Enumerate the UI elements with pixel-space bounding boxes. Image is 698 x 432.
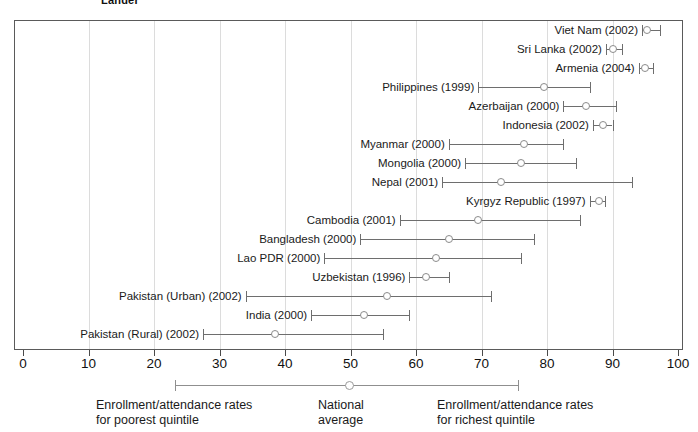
chart-row: Nepal (2001) [0, 173, 698, 192]
richest-cap [409, 310, 410, 321]
chart-row: Azerbaijan (2000) [0, 97, 698, 116]
richest-cap [449, 272, 450, 283]
chart-row: Pakistan (Urban) (2002) [0, 287, 698, 306]
row-label: Pakistan (Urban) (2002) [119, 287, 242, 306]
chart-rows: Viet Nam (2002)Sri Lanka (2002)Armenia (… [0, 20, 698, 350]
legend-right-cap [518, 380, 519, 391]
legend-average-marker [345, 381, 354, 390]
range-line [442, 182, 632, 183]
national-average-marker [360, 311, 368, 319]
richest-cap [622, 44, 623, 55]
x-tick-label: 70 [474, 356, 489, 371]
chart-row: Mongolia (2000) [0, 154, 698, 173]
poorest-cap [409, 272, 410, 283]
x-tick-label: 60 [408, 356, 423, 371]
poorest-cap [246, 291, 247, 302]
row-label: Cambodia (2001) [307, 211, 396, 230]
row-label: Nepal (2001) [372, 173, 438, 192]
row-label: Indonesia (2002) [503, 116, 589, 135]
legend-left-cap [175, 380, 176, 391]
legend-poorest-label: Enrollment/attendance rates for poorest … [96, 398, 252, 428]
row-label: Azerbaijan (2000) [469, 97, 560, 116]
range-line [449, 144, 564, 145]
richest-cap [632, 177, 633, 188]
national-average-marker [422, 273, 430, 281]
national-average-marker [582, 102, 590, 110]
national-average-marker [641, 64, 649, 72]
poorest-cap [639, 63, 640, 74]
richest-cap [605, 196, 606, 207]
x-tick-label: 10 [81, 356, 96, 371]
chart-row: Philippines (1999) [0, 78, 698, 97]
national-average-marker [517, 159, 525, 167]
national-average-marker [520, 140, 528, 148]
richest-cap [521, 253, 522, 264]
range-line [400, 220, 580, 221]
range-line [324, 258, 521, 259]
national-average-marker [474, 216, 482, 224]
chart-row: Cambodia (2001) [0, 211, 698, 230]
row-label: Kyrgyz Republic (1997) [466, 192, 586, 211]
row-label: Viet Nam (2002) [554, 21, 638, 40]
chart-row: Uzbekistan (1996) [0, 268, 698, 287]
national-average-marker [609, 45, 617, 53]
poorest-cap [563, 101, 564, 112]
poorest-cap [465, 158, 466, 169]
richest-cap [616, 101, 617, 112]
x-tick-label: 40 [277, 356, 292, 371]
chart-row: Lao PDR (2000) [0, 249, 698, 268]
row-label: Sri Lanka (2002) [517, 40, 602, 59]
poorest-cap [590, 196, 591, 207]
richest-cap [660, 25, 661, 36]
row-label: Lao PDR (2000) [237, 249, 320, 268]
x-tick-label: 20 [146, 356, 161, 371]
x-tick-label: 30 [212, 356, 227, 371]
national-average-marker [271, 330, 279, 338]
poorest-cap [203, 329, 204, 340]
x-tick-label: 0 [19, 356, 27, 371]
legend-national-label: National average [318, 398, 364, 428]
range-line [246, 296, 492, 297]
range-line [203, 334, 383, 335]
chart-row: Pakistan (Rural) (2002) [0, 325, 698, 344]
richest-cap [491, 291, 492, 302]
chart-row: India (2000) [0, 306, 698, 325]
x-tick-label: 80 [539, 356, 554, 371]
x-axis: 0102030405060708090100 [0, 350, 698, 376]
national-average-marker [643, 26, 651, 34]
national-average-marker [432, 254, 440, 262]
poorest-cap [360, 234, 361, 245]
row-label: Uzbekistan (1996) [312, 268, 405, 287]
x-tick-label: 50 [343, 356, 358, 371]
richest-cap [653, 63, 654, 74]
poorest-cap [400, 215, 401, 226]
range-chart: Lander Viet Nam (2002)Sri Lanka (2002)Ar… [0, 0, 698, 432]
chart-legend: Enrollment/attendance rates for poorest … [0, 378, 698, 432]
poorest-cap [311, 310, 312, 321]
national-average-marker [540, 83, 548, 91]
poorest-cap [324, 253, 325, 264]
row-label: Bangladesh (2000) [259, 230, 356, 249]
chart-row: Armenia (2004) [0, 59, 698, 78]
range-line [478, 87, 589, 88]
chart-row: Sri Lanka (2002) [0, 40, 698, 59]
row-label: Mongolia (2000) [378, 154, 461, 173]
national-average-marker [497, 178, 505, 186]
richest-cap [534, 234, 535, 245]
row-label: Philippines (1999) [382, 78, 474, 97]
national-average-marker [383, 292, 391, 300]
x-tick-label: 90 [605, 356, 620, 371]
legend-richest-label: Enrollment/attendance rates for richest … [437, 398, 593, 428]
row-label: Pakistan (Rural) (2002) [80, 325, 199, 344]
chart-row: Myanmar (2000) [0, 135, 698, 154]
row-label: Myanmar (2000) [360, 135, 444, 154]
chart-row: Viet Nam (2002) [0, 21, 698, 40]
chart-row: Indonesia (2002) [0, 116, 698, 135]
richest-cap [580, 215, 581, 226]
poorest-cap [606, 44, 607, 55]
clipped-title: Lander [101, 0, 139, 4]
poorest-cap [449, 139, 450, 150]
national-average-marker [595, 197, 603, 205]
chart-row: Kyrgyz Republic (1997) [0, 192, 698, 211]
poorest-cap [442, 177, 443, 188]
